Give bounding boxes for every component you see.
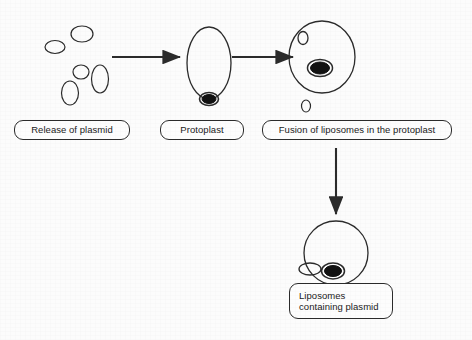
liposome-vesicle [73,65,89,79]
protoplast-membrane [289,21,355,93]
attached-liposome [299,263,321,275]
plasmid-blob [325,266,342,277]
liposome-vesicle [71,26,93,42]
liposome-vesicle [92,65,109,93]
liposome-vesicle [45,41,65,54]
diagram-illustration [0,0,472,340]
final-protoplast-cell [299,221,368,285]
plasmid-blob [202,95,216,104]
liposome-vesicle [62,81,79,105]
free-liposome-cluster [45,26,109,105]
liposome-vesicle [302,100,311,112]
fusion-protoplast-cell [289,21,355,93]
protoplast-cell [187,27,231,106]
diagram-canvas: Release of plasmid Protoplast Fusion of … [0,0,472,340]
plasmid-blob [311,62,330,74]
label-release-of-plasmid: Release of plasmid [14,120,130,140]
label-liposomes-containing-plasmid: Liposomes containing plasmid [289,283,393,319]
protoplast-membrane [187,27,231,99]
label-protoplast: Protoplast [160,120,244,140]
internal-liposome [298,32,308,45]
label-fusion-of-liposomes: Fusion of liposomes in the protoplast [262,120,452,140]
